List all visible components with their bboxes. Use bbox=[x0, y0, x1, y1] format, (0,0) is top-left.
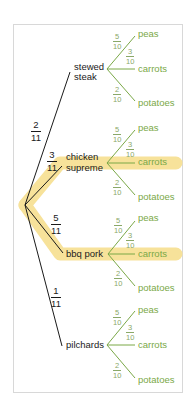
leaf-potatoes: potatoes bbox=[138, 98, 174, 108]
prob-denominator: 10 bbox=[113, 319, 121, 326]
leaf-potatoes: potatoes bbox=[138, 283, 174, 293]
prob-pilchards: 111 bbox=[51, 286, 61, 309]
prob-denominator: 10 bbox=[114, 280, 122, 287]
prob-potatoes: 210 bbox=[114, 270, 122, 287]
prob-denominator: 10 bbox=[113, 136, 121, 143]
prob-numerator: 3 bbox=[128, 48, 132, 55]
node-bbq-pork: bbq pork bbox=[66, 249, 103, 259]
node-chicken-supreme-line1: chicken bbox=[66, 152, 98, 162]
prob-numerator: 2 bbox=[115, 362, 119, 369]
highlight-path bbox=[25, 163, 176, 254]
leaf-peas: peas bbox=[138, 29, 159, 39]
node-chicken-supreme-line2: supreme bbox=[66, 163, 103, 173]
node-pilchards: pilchards bbox=[66, 340, 104, 350]
prob-numerator: 3 bbox=[49, 150, 54, 160]
prob-numerator: 5 bbox=[115, 309, 119, 316]
leaf-carrots: carrots bbox=[138, 249, 167, 259]
leaf-peas: peas bbox=[138, 123, 159, 133]
prob-peas: 510 bbox=[113, 126, 121, 143]
prob-carrots: 310 bbox=[126, 232, 134, 249]
leaf-carrots: carrots bbox=[138, 64, 167, 74]
prob-denominator: 10 bbox=[126, 58, 134, 65]
prob-stewed-steak: 211 bbox=[31, 120, 41, 143]
leaf-potatoes: potatoes bbox=[138, 375, 174, 385]
prob-numerator: 3 bbox=[128, 324, 132, 331]
prob-numerator: 5 bbox=[53, 213, 58, 223]
prob-numerator: 5 bbox=[115, 33, 119, 40]
prob-denominator: 11 bbox=[51, 226, 61, 236]
prob-potatoes: 210 bbox=[113, 86, 121, 103]
leaf-carrots: carrots bbox=[138, 340, 167, 350]
prob-denominator: 10 bbox=[113, 189, 121, 196]
prob-potatoes: 210 bbox=[113, 179, 121, 196]
prob-numerator: 5 bbox=[115, 126, 119, 133]
prob-numerator: 2 bbox=[33, 120, 38, 130]
prob-peas: 510 bbox=[114, 217, 122, 234]
prob-denominator: 10 bbox=[113, 43, 121, 50]
prob-carrots: 310 bbox=[126, 324, 134, 341]
prob-numerator: 5 bbox=[116, 217, 120, 224]
prob-peas: 510 bbox=[113, 33, 121, 50]
leaf-carrots: carrots bbox=[138, 157, 167, 167]
prob-denominator: 10 bbox=[113, 96, 121, 103]
prob-numerator: 2 bbox=[116, 270, 120, 277]
leaf-peas: peas bbox=[138, 305, 159, 315]
leaf-peas: peas bbox=[138, 213, 159, 223]
prob-carrots: 310 bbox=[126, 48, 134, 65]
prob-denominator: 10 bbox=[126, 242, 134, 249]
prob-numerator: 2 bbox=[115, 179, 119, 186]
prob-numerator: 3 bbox=[128, 141, 132, 148]
prob-denominator: 10 bbox=[126, 151, 134, 158]
prob-numerator: 1 bbox=[53, 286, 58, 296]
prob-carrots: 310 bbox=[126, 141, 134, 158]
prob-denominator: 10 bbox=[126, 334, 134, 341]
leaf-potatoes: potatoes bbox=[138, 192, 174, 202]
prob-denominator: 10 bbox=[113, 372, 121, 379]
prob-denominator: 11 bbox=[47, 163, 57, 173]
prob-peas: 510 bbox=[113, 309, 121, 326]
prob-denominator: 11 bbox=[31, 133, 41, 143]
prob-numerator: 2 bbox=[115, 86, 119, 93]
prob-denominator: 10 bbox=[114, 227, 122, 234]
prob-bbq-pork: 511 bbox=[51, 213, 61, 236]
prob-chicken-supreme: 311 bbox=[47, 150, 57, 173]
prob-denominator: 11 bbox=[51, 299, 61, 309]
prob-potatoes: 210 bbox=[113, 362, 121, 379]
node-stewed-steak-line2: steak bbox=[74, 72, 97, 82]
prob-numerator: 3 bbox=[128, 232, 132, 239]
